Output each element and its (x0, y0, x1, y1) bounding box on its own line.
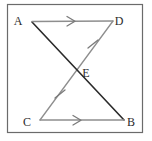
vertex-label-e: E (82, 66, 89, 80)
vertex-label-c: C (23, 115, 31, 129)
vertex-label-d: D (115, 14, 124, 28)
vertex-label-b: B (127, 115, 135, 129)
geometry-figure-container: A D E C B (0, 0, 152, 141)
geometry-diagram: A D E C B (0, 0, 152, 141)
congruence-tick-ec-icon (55, 90, 65, 98)
segment-ab (32, 22, 124, 120)
segment-ad (32, 21, 113, 22)
vertex-label-a: A (14, 14, 23, 28)
